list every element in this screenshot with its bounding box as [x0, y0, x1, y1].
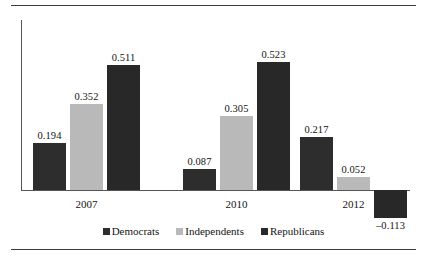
- legend-item-democrats: Democrats: [103, 225, 160, 238]
- bar-2010-republicans: [257, 62, 290, 190]
- legend-item-republicans: Republicans: [261, 225, 324, 238]
- legend-item-independents: Independents: [176, 225, 244, 238]
- bar-2010-democrats: [183, 169, 216, 190]
- bar-label-2007-independents: 0.352: [60, 91, 113, 103]
- x-tick-label-2010: 2010: [183, 198, 290, 211]
- legend-label-independents: Independents: [185, 225, 244, 238]
- bar-label-2010-independents: 0.305: [210, 103, 263, 115]
- x-tick-label-2012: 2012: [300, 198, 407, 211]
- legend-label-democrats: Democrats: [112, 225, 160, 238]
- legend-swatch-republicans-icon: [261, 228, 268, 235]
- bar-2007-democrats: [33, 143, 66, 190]
- plot-area: 0.194 0.352 0.511 0.087 0.305 0.523 0.21…: [0, 0, 427, 260]
- bar-label-2010-democrats: 0.087: [173, 156, 226, 168]
- bar-label-2010-republicans: 0.523: [247, 49, 300, 61]
- x-axis-line: [21, 190, 410, 191]
- bar-label-2012-democrats: 0.217: [290, 124, 343, 136]
- bar-2012-independents: [337, 177, 370, 190]
- bar-2007-independents: [70, 104, 103, 190]
- legend-label-republicans: Republicans: [270, 225, 324, 238]
- y-axis-line: [21, 20, 22, 190]
- chart-legend: Democrats Independents Republicans: [0, 225, 427, 238]
- bar-2007-republicans: [107, 65, 140, 190]
- bar-2010-independents: [220, 116, 253, 190]
- bottom-rule: [11, 249, 416, 250]
- legend-swatch-democrats-icon: [103, 228, 110, 235]
- bar-label-2007-republicans: 0.511: [97, 52, 150, 64]
- bar-label-2007-democrats: 0.194: [23, 130, 76, 142]
- bar-label-2012-independents: 0.052: [327, 164, 380, 176]
- chart-figure: 0.194 0.352 0.511 0.087 0.305 0.523 0.21…: [0, 0, 427, 260]
- x-tick-label-2007: 2007: [33, 198, 140, 211]
- legend-swatch-independents-icon: [176, 228, 183, 235]
